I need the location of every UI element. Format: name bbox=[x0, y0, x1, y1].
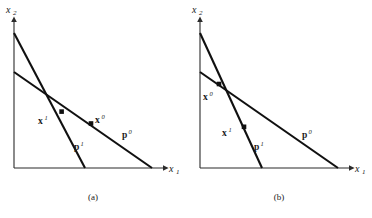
budget-line-p0-a bbox=[14, 72, 152, 168]
line-label-p0-b: p bbox=[302, 130, 307, 140]
line-label-p1-sup-b: 1 bbox=[261, 140, 264, 147]
x-axis-label-b: x bbox=[354, 163, 360, 174]
figure-container: x 2 x 1 x 1 x 0 p 1 p 0 bbox=[0, 0, 372, 218]
bundle-marker-x0-b bbox=[217, 82, 222, 87]
panel-b: x 2 x 1 x 0 x 1 p 1 p 0 bbox=[186, 0, 372, 218]
bundle-label-x0-a: x bbox=[95, 115, 100, 125]
caption-a: (a) bbox=[88, 192, 98, 202]
bundle-label-x1-sup-a: 1 bbox=[45, 114, 48, 121]
x-axis-label-a: x bbox=[168, 163, 174, 174]
y-axis-label-a: x bbox=[5, 4, 11, 15]
line-label-p0-a: p bbox=[122, 130, 127, 140]
y-axis-label-sub-b: 2 bbox=[199, 9, 203, 17]
y-axis-label-b: x bbox=[191, 4, 197, 15]
budget-line-p0-b bbox=[200, 72, 338, 168]
bundle-label-x0-sup-b: 0 bbox=[210, 90, 214, 97]
bundle-marker-x0-a bbox=[89, 121, 94, 126]
budget-line-p1-b bbox=[200, 33, 262, 168]
line-label-p0-sup-a: 0 bbox=[129, 128, 133, 135]
bundle-label-x1-sup-b: 1 bbox=[229, 126, 232, 133]
y-axis-label-sub-a: 2 bbox=[13, 9, 17, 17]
caption-b: (b) bbox=[274, 192, 285, 202]
line-label-p1-sup-a: 1 bbox=[81, 140, 84, 147]
x-axis-label-sub-a: 1 bbox=[176, 168, 180, 176]
bundle-marker-x1-b bbox=[242, 125, 247, 130]
bundle-label-x0-b: x bbox=[203, 92, 208, 102]
line-label-p0-sup-b: 0 bbox=[309, 128, 313, 135]
panel-a: x 2 x 1 x 1 x 0 p 1 p 0 bbox=[0, 0, 186, 218]
bundle-label-x1-b: x bbox=[222, 128, 227, 138]
x-axis-label-sub-b: 1 bbox=[362, 168, 366, 176]
line-label-p1-b: p bbox=[254, 142, 259, 152]
bundle-label-x0-sup-a: 0 bbox=[102, 113, 106, 120]
line-label-p1-a: p bbox=[74, 142, 79, 152]
bundle-label-x1-a: x bbox=[38, 116, 43, 126]
bundle-marker-x1-a bbox=[59, 109, 64, 114]
